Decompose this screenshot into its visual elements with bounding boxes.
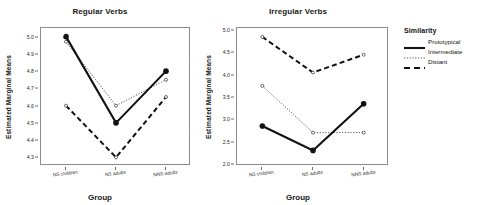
legend-entries: PrototypicalIntermediateDistant <box>404 37 501 66</box>
data-point <box>311 148 315 152</box>
x-tick-mark <box>115 167 116 170</box>
y-tick-mark <box>231 30 234 31</box>
y-axis-ticks-irregular: 2.02.53.03.54.04.55.0 <box>210 27 234 165</box>
y-tick-mark <box>231 163 234 164</box>
y-tick-mark <box>35 71 38 72</box>
figure-two-panel-line-charts: Regular Verbs Estimated Marginal Means 4… <box>0 0 501 205</box>
series-line-prototypical <box>262 104 363 151</box>
data-point <box>114 121 118 125</box>
data-point <box>362 53 365 56</box>
panel-irregular-verbs: Irregular Verbs Estimated Marginal Means… <box>200 0 396 205</box>
y-tick-mark <box>35 36 38 37</box>
y-tick-label: 4.0 <box>223 72 230 78</box>
x-tick-mark <box>261 167 262 170</box>
y-tick-label: 3.0 <box>223 116 230 122</box>
data-point <box>65 104 68 107</box>
y-axis-ticks-regular: 4.34.44.54.64.74.84.95.0 <box>14 27 38 165</box>
x-tick-label: NS children <box>53 169 78 177</box>
legend-line-swatch-solid <box>404 38 425 46</box>
legend-line-swatch-dashed <box>404 58 425 66</box>
data-point <box>361 101 365 105</box>
y-tick-label: 3.5 <box>223 94 230 100</box>
y-tick-label: 4.4 <box>27 137 34 143</box>
legend-label: Intermediate <box>428 48 462 55</box>
legend-item-distant[interactable]: Distant <box>404 57 501 66</box>
panel-regular-verbs: Regular Verbs Estimated Marginal Means 4… <box>0 0 200 205</box>
x-tick-label: NS adults <box>302 170 323 177</box>
y-tick-mark <box>231 119 234 120</box>
y-tick-mark <box>35 122 38 123</box>
legend-label: Prototypical <box>428 38 460 45</box>
data-point <box>164 69 168 73</box>
y-tick-mark <box>35 88 38 89</box>
x-axis-ticks-regular: NS childrenNS adultsNNS adults <box>40 167 190 183</box>
x-tick-label: NNS adults <box>153 170 178 178</box>
data-point <box>115 104 118 107</box>
y-tick-label: 4.5 <box>27 120 34 126</box>
y-tick-label: 4.9 <box>27 51 34 57</box>
data-point <box>65 40 68 43</box>
y-tick-label: 5.0 <box>223 27 230 33</box>
y-tick-label: 4.5 <box>223 49 230 55</box>
series-lines-regular <box>41 28 191 166</box>
y-tick-label: 2.5 <box>223 139 230 145</box>
y-tick-mark <box>35 53 38 54</box>
legend: Similarity PrototypicalIntermediateDista… <box>404 27 501 67</box>
data-point <box>312 71 315 74</box>
y-tick-label: 4.3 <box>27 154 34 160</box>
legend-line-swatch-dotted <box>404 48 425 56</box>
data-point <box>261 84 264 87</box>
x-tick-label: NS adults <box>105 170 126 177</box>
plot-area-irregular <box>236 27 388 165</box>
x-tick-label: NS children <box>249 169 274 177</box>
x-tick-mark <box>165 167 166 170</box>
legend-title: Similarity <box>404 27 501 34</box>
data-point <box>312 131 315 134</box>
data-point <box>362 131 365 134</box>
y-tick-mark <box>35 157 38 158</box>
y-tick-label: 4.8 <box>27 68 34 74</box>
plot-area-regular <box>40 27 190 165</box>
panel-title-regular: Regular Verbs <box>0 7 200 16</box>
data-point <box>260 124 264 128</box>
data-point <box>165 96 168 99</box>
y-tick-label: 4.7 <box>27 85 34 91</box>
data-point <box>261 35 264 38</box>
series-line-intermediate <box>262 86 363 133</box>
y-tick-label: 4.6 <box>27 103 34 109</box>
y-axis-title-regular: Estimated Marginal Means <box>2 33 14 161</box>
y-tick-label: 2.0 <box>223 161 230 167</box>
y-tick-mark <box>35 105 38 106</box>
data-point <box>64 34 68 38</box>
data-point <box>165 78 168 81</box>
panel-title-irregular: Irregular Verbs <box>200 7 396 16</box>
x-tick-mark <box>363 167 364 170</box>
data-point <box>115 156 118 159</box>
legend-label: Distant <box>428 58 447 65</box>
y-tick-mark <box>35 140 38 141</box>
x-axis-title-irregular: Group <box>200 193 396 202</box>
x-tick-mark <box>65 167 66 170</box>
y-tick-label: 5.0 <box>27 34 34 40</box>
y-tick-mark <box>231 97 234 98</box>
x-tick-label: NNS adults <box>351 170 376 178</box>
series-lines-irregular <box>237 28 389 166</box>
y-tick-mark <box>231 141 234 142</box>
y-tick-mark <box>231 52 234 53</box>
legend-item-intermediate[interactable]: Intermediate <box>404 47 501 56</box>
y-tick-mark <box>231 74 234 75</box>
series-line-intermediate <box>66 42 166 106</box>
x-tick-mark <box>312 167 313 170</box>
series-line-prototypical <box>66 37 166 123</box>
x-axis-ticks-irregular: NS childrenNS adultsNNS adults <box>236 167 388 183</box>
legend-item-prototypical[interactable]: Prototypical <box>404 37 501 46</box>
x-axis-title-regular: Group <box>0 193 200 202</box>
series-line-distant <box>262 37 363 73</box>
